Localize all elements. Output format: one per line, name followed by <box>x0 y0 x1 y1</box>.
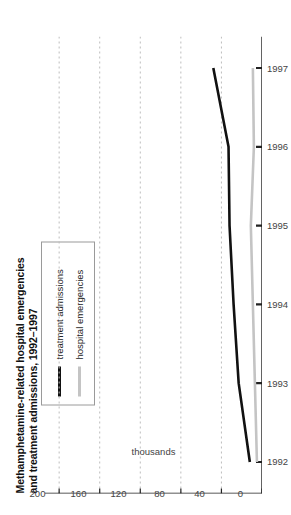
y-tick-label: 40 <box>185 488 215 499</box>
plot-area <box>43 36 262 493</box>
x-tick-label: 1992 <box>261 456 291 467</box>
y-axis-label: thousands <box>93 446 213 457</box>
x-tick-label: 1994 <box>261 298 291 309</box>
series-line-treatment-admissions <box>213 68 250 462</box>
chart-title-line-2: and treatment admissions, 1992–1997 <box>27 163 40 493</box>
series-line-hospital-emergencies <box>251 68 257 462</box>
chart-title: Methamphetamine-related hospital emergen… <box>14 163 40 493</box>
x-tick-label: 1995 <box>261 220 291 231</box>
plot-svg <box>43 36 262 493</box>
chart-figure: Methamphetamine-related hospital emergen… <box>0 0 290 515</box>
x-tick-marks <box>256 68 262 462</box>
y-tick-label: 120 <box>104 488 134 499</box>
y-tick-label: 0 <box>226 488 256 499</box>
chart-title-line-1: Methamphetamine-related hospital emergen… <box>14 163 27 493</box>
x-tick-label: 1996 <box>261 141 291 152</box>
y-tick-label: 160 <box>63 488 93 499</box>
x-tick-label: 1997 <box>261 62 291 73</box>
series-lines <box>213 68 257 462</box>
x-tick-label: 1993 <box>261 377 291 388</box>
y-tick-label: 80 <box>144 488 174 499</box>
gridlines <box>59 36 221 493</box>
y-tick-label: 200 <box>23 488 53 499</box>
